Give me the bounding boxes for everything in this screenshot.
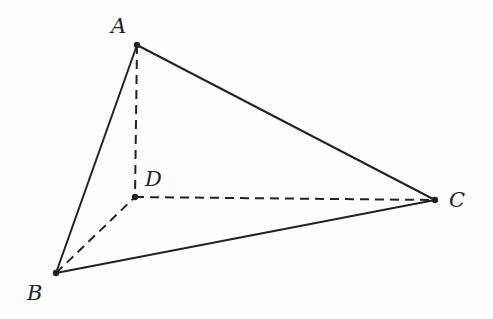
edge-ad-hidden — [135, 45, 137, 197]
edge-cd-hidden — [135, 197, 435, 200]
edge-ac — [137, 45, 435, 200]
label-b: B — [27, 283, 42, 304]
label-a: A — [111, 16, 126, 37]
vertex-c — [432, 197, 438, 203]
vertex-d — [132, 194, 138, 200]
edge-bd-hidden — [56, 197, 135, 273]
edge-ab — [56, 45, 137, 273]
label-c: C — [449, 190, 465, 211]
vertex-a — [134, 42, 140, 48]
pyramid-diagram: A B C D — [0, 0, 493, 319]
diagram-canvas — [0, 0, 493, 319]
vertex-b — [53, 270, 59, 276]
label-d: D — [145, 169, 162, 190]
edge-bc — [56, 200, 435, 273]
